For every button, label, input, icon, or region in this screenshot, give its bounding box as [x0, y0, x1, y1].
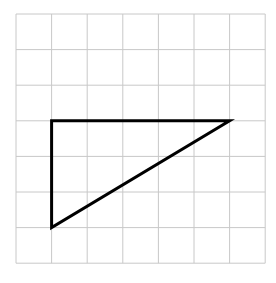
grid-diagram — [0, 0, 276, 283]
right-triangle — [52, 121, 230, 228]
